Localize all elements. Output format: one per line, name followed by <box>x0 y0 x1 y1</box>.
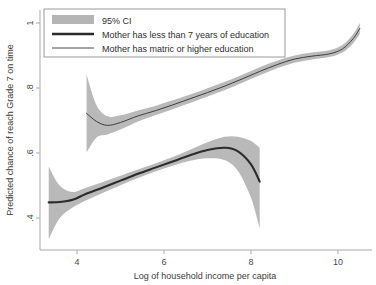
y-tick-label-0: .4 <box>25 214 35 222</box>
y-tick-label-1: .6 <box>25 149 35 157</box>
x-tick-label-0: 4 <box>74 257 79 267</box>
legend-swatch-ci <box>52 15 94 24</box>
y-tick-label-2: .8 <box>25 84 35 92</box>
line-chart: 46810.4.6.81Log of household income per … <box>0 0 376 285</box>
x-tick-label-2: 8 <box>248 257 253 267</box>
legend-label-2: Mother has matric or higher education <box>102 44 254 54</box>
x-tick-label-1: 6 <box>161 257 166 267</box>
legend: 95% CIMother has less than 7 years of ed… <box>44 9 285 57</box>
x-axis-title: Log of household income per capita <box>134 271 277 281</box>
chart-container: 46810.4.6.81Log of household income per … <box>0 0 376 285</box>
x-tick-label-3: 10 <box>333 257 343 267</box>
y-tick-label-3: 1 <box>25 20 35 25</box>
y-axis-title: Predicted chance of reach Grade 7 on tim… <box>5 44 15 216</box>
legend-item-0[interactable]: 95% CI <box>52 15 132 26</box>
legend-label-0: 95% CI <box>102 16 132 26</box>
ci-band-series-0 <box>49 136 260 239</box>
legend-label-1: Mother has less than 7 years of educatio… <box>102 30 269 40</box>
